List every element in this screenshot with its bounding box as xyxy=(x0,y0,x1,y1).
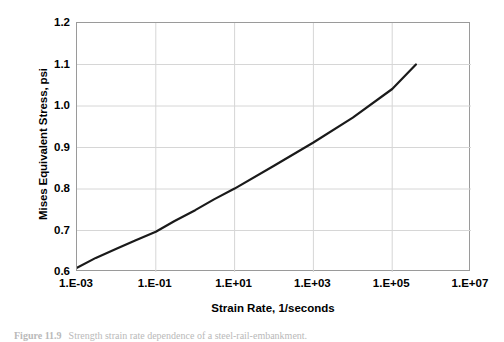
y-tick-label: 0.9 xyxy=(36,141,70,153)
y-tick-label: 1.0 xyxy=(36,99,70,111)
x-tick-label: 1.E+07 xyxy=(435,276,504,290)
plot-svg xyxy=(77,23,471,272)
x-tick-label: 1.E+01 xyxy=(199,276,269,290)
x-axis-title: Strain Rate, 1/seconds xyxy=(76,302,470,314)
y-tick-label: 1.1 xyxy=(36,58,70,70)
x-tick-label: 1.E-03 xyxy=(41,276,111,290)
plot-area xyxy=(76,22,470,271)
figure-caption-text: Strength strain rate dependence of a ste… xyxy=(69,330,308,341)
y-tick-label: 0.8 xyxy=(36,182,70,194)
figure-container: Mises Equivalent Stress, psi 0.60.70.80.… xyxy=(0,0,504,342)
x-tick-label: 1.E+03 xyxy=(277,276,347,290)
figure-caption-number: Figure 11.9 xyxy=(14,330,62,341)
data-series-line xyxy=(77,65,416,268)
x-axis-tick-labels: 1.E-031.E-011.E+011.E+031.E+051.E+07 xyxy=(0,276,504,292)
x-tick-label: 1.E-01 xyxy=(120,276,190,290)
horizontal-gridlines xyxy=(77,65,471,231)
y-tick-label: 1.2 xyxy=(36,16,70,28)
y-tick-label: 0.7 xyxy=(36,224,70,236)
figure-caption: Figure 11.9Strength strain rate dependen… xyxy=(14,330,484,341)
x-tick-label: 1.E+05 xyxy=(356,276,426,290)
